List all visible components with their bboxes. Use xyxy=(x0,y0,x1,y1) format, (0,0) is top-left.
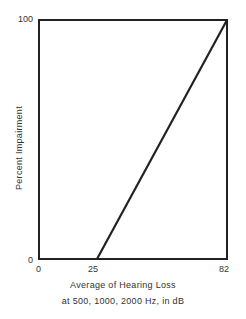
x-axis-label-line2: at 500, 1000, 2000 Hz, in dB xyxy=(0,296,246,306)
x-tick-25: 25 xyxy=(88,264,98,274)
y-tick-0: 0 xyxy=(28,255,33,265)
x-tick-82: 82 xyxy=(219,264,229,274)
y-tick-100: 100 xyxy=(18,14,33,24)
x-tick-0: 0 xyxy=(36,264,41,274)
y-axis-label: Percent Impairment xyxy=(14,106,24,190)
x-axis-label-line1: Average of Hearing Loss xyxy=(0,280,246,290)
